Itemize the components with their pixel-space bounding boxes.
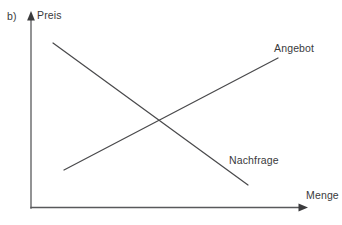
demand-curve-label-nachfrage: Nachfrage [229,154,279,166]
panel-letter-label: b) [7,10,17,22]
x-axis-label-menge: Menge [306,189,339,201]
y-axis-label-preis: Preis [37,9,62,21]
x-axis-arrow-icon [299,204,309,212]
y-axis-arrow-icon [27,11,35,21]
chart-canvas [0,0,342,225]
demand-curve-nachfrage [53,43,248,185]
supply-curve-label-angebot: Angebot [274,42,314,54]
supply-demand-figure: b) Preis Menge Angebot Nachfrage [0,0,342,225]
